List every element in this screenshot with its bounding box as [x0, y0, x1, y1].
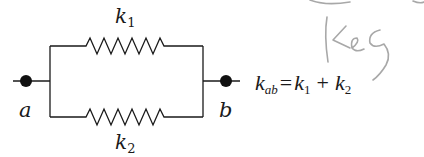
spring-k2	[50, 109, 203, 125]
node-a	[20, 75, 32, 87]
eq-equals: =	[280, 70, 292, 95]
spring-k1	[50, 38, 203, 54]
eq-lhs-base: k	[255, 70, 265, 95]
handwritten-keq-annotation	[310, 0, 424, 80]
eq-term1-base: k	[294, 70, 304, 95]
eq-term1-subscript: 1	[304, 82, 311, 97]
eq-term2-subscript: 2	[345, 82, 352, 97]
eq-lhs-subscript: ab	[265, 82, 278, 97]
node-a-label: a	[19, 98, 32, 122]
node-b	[220, 75, 232, 87]
k2-label: k2	[115, 130, 135, 154]
k1-base: k	[115, 4, 127, 28]
k2-subscript: 2	[127, 141, 135, 156]
spring-circuit-diagram	[0, 0, 424, 157]
node-b-label: b	[219, 98, 232, 122]
k1-label: k1	[115, 4, 135, 28]
k2-base: k	[115, 130, 127, 154]
equivalent-stiffness-equation: kab=k1+k2	[255, 70, 351, 96]
eq-plus: +	[316, 70, 328, 95]
eq-term2-base: k	[335, 70, 345, 95]
k1-subscript: 1	[127, 15, 135, 30]
